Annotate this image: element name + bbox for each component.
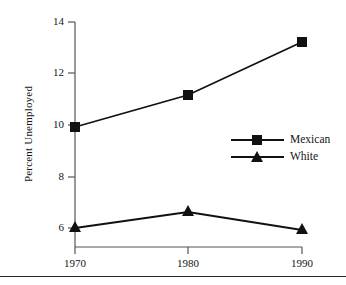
legend-marker-mexican-square-icon — [252, 135, 262, 145]
y-axis-title: Percent Unemployed — [22, 54, 34, 214]
bottom-divider — [0, 276, 346, 277]
legend-samples — [231, 135, 284, 162]
y-tick-label-8: 8 — [38, 170, 64, 182]
x-tick-label-1980: 1980 — [168, 257, 208, 269]
y-tick-label-14: 14 — [38, 15, 64, 27]
y-tick-label-6: 6 — [38, 221, 64, 233]
x-tick-label-1970: 1970 — [55, 257, 95, 269]
series-mexican-marker-1980 — [183, 90, 193, 100]
legend-label-white: White — [290, 150, 318, 162]
x-tick-label-1990: 1990 — [282, 257, 322, 269]
chart-figure: Percent Unemployed 14 12 10 8 6 1970 198… — [0, 0, 346, 285]
y-tick-label-12: 12 — [38, 66, 64, 78]
legend-label-mexican: Mexican — [290, 133, 330, 145]
x-axis-ticks — [75, 247, 302, 254]
y-tick-label-10: 10 — [38, 118, 64, 130]
series-mexican-line — [75, 42, 302, 127]
series-white-marker-1980 — [182, 205, 194, 216]
series-mexican — [70, 37, 307, 132]
series-white — [69, 205, 308, 234]
series-mexican-marker-1990 — [297, 37, 307, 47]
series-mexican-marker-1970 — [70, 122, 80, 132]
